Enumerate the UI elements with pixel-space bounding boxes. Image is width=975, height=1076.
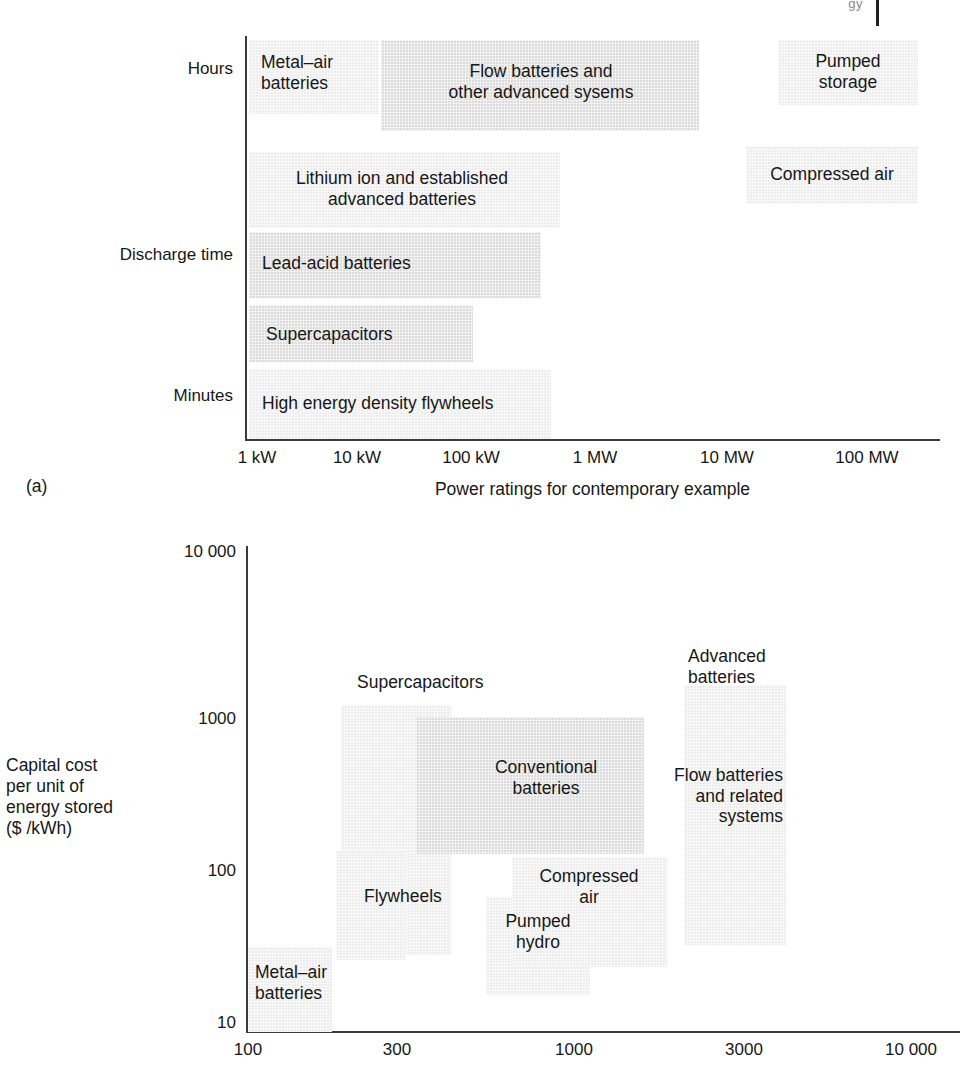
panel-b-label-supercapacitors: Supercapacitors xyxy=(357,672,597,693)
panel-b-xtick-300: 300 xyxy=(352,1040,442,1060)
panel-b-xtick-1000: 1000 xyxy=(529,1040,619,1060)
panel-b-x-axis xyxy=(246,1031,960,1033)
chart-panel-b: 10 000 1000 100 10 Capital cost per unit… xyxy=(0,0,975,1076)
panel-b-ytick-1000: 1000 xyxy=(104,709,236,729)
panel-b-label-advanced-batteries: Advanced batteries xyxy=(688,646,833,687)
panel-b-label-compressed-air: Compressed air xyxy=(512,866,666,907)
panel-b-xtick-10000: 10 000 xyxy=(856,1040,966,1060)
panel-b-label-pumped-hydro: Pumped hydro xyxy=(484,911,592,952)
panel-b-label-flow-batteries: Flow batteries and related systems xyxy=(628,765,783,827)
panel-b-ytick-10000: 10 000 xyxy=(104,542,236,562)
panel-b-xtick-3000: 3000 xyxy=(699,1040,789,1060)
panel-b-label-flywheels: Flywheels xyxy=(364,886,494,907)
panel-b-xtick-100: 100 xyxy=(203,1040,293,1060)
panel-b-label-conventional-batteries: Conventional batteries xyxy=(456,757,636,798)
panel-b-ytick-10: 10 xyxy=(104,1013,236,1033)
panel-b-ytick-100: 100 xyxy=(104,861,236,881)
panel-b-y-axis-title: Capital cost per unit of energy stored (… xyxy=(6,755,186,839)
panel-b-label-metal-air: Metal–air batteries xyxy=(255,962,375,1003)
